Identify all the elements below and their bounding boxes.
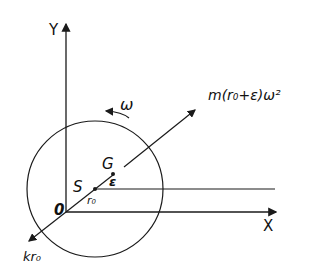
centrifugal-force-label: m(r₀+ε)ω² [208,88,281,102]
diagram-svg [0,0,315,277]
epsilon-label: ε [109,175,116,188]
point-g-label: G [102,157,114,172]
spring-force-label: kr₀ [23,250,41,263]
centrifugal-force-arrow [124,110,195,167]
point-s-label: S [73,180,83,195]
point-s [93,187,97,191]
origin-label: 0 [54,203,64,218]
x-axis-label: X [263,219,273,234]
omega-label: ω [120,97,133,113]
y-axis-label: Y [49,23,58,38]
diagram-canvas: Y X 0 S G ε r₀ ω m(r₀+ε)ω² kr₀ [0,0,315,277]
r0-label: r₀ [87,195,96,206]
